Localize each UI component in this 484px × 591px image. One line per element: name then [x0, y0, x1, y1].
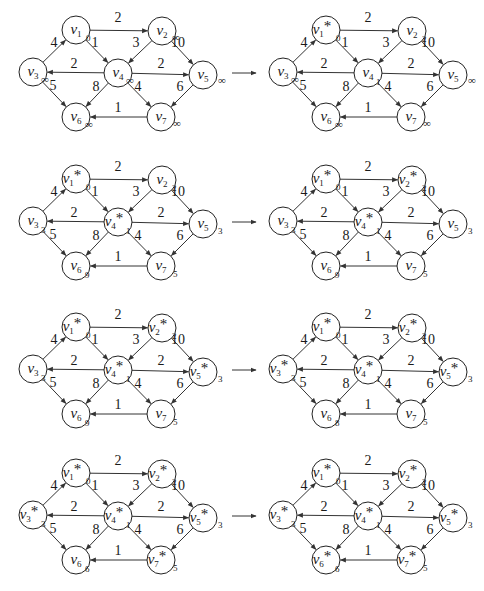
edge-weight: 6 — [427, 376, 434, 391]
edge-weight: 8 — [343, 376, 350, 391]
graph-canvas: 4213102258461v10v2∞v3∞v4∞v5∞v6∞v7∞421310… — [0, 0, 484, 591]
distance-label: 3 — [218, 374, 223, 384]
distance-label: 6 — [85, 564, 90, 574]
edge-v4-v5: 2 — [132, 205, 189, 224]
edge-weight: 4 — [385, 522, 392, 537]
edge-weight: 8 — [93, 376, 100, 391]
edge-weight: 4 — [51, 332, 58, 347]
edge-weight: 6 — [427, 79, 434, 94]
distance-label: 1 — [126, 374, 131, 384]
panels: 4213102258461v10v2∞v3∞v4∞v5∞v6∞v7∞421310… — [19, 10, 476, 574]
edge-weight: 8 — [343, 522, 350, 537]
edge-weight: 8 — [93, 228, 100, 243]
edge-v4-v7: 4 — [128, 376, 151, 404]
distance-label: 2 — [172, 477, 177, 487]
edge-weight: 5 — [50, 375, 57, 390]
edge-weight: 2 — [408, 205, 415, 220]
distance-label: 1 — [126, 520, 131, 530]
graph-panel-p5: 4213102258461v1*0v2*2v33v4*1v5*3v69v75 — [19, 307, 223, 428]
edge-weight: 5 — [300, 227, 307, 242]
edge-weight: 4 — [51, 35, 58, 50]
edge-weight: 1 — [92, 332, 99, 347]
distance-label: 0 — [86, 476, 91, 486]
edge-weight: 2 — [321, 205, 328, 220]
distance-label: 2 — [172, 331, 177, 341]
edge-weight: 2 — [365, 453, 372, 468]
edge-v5-v7: 6 — [171, 228, 193, 256]
edge-v2-v4: 3 — [129, 332, 152, 360]
vertex-v6: v6∞ — [62, 103, 93, 131]
edge-weight: 2 — [115, 453, 122, 468]
edge-v5-v7: 6 — [171, 79, 193, 107]
vertex-v5: v5*3 — [189, 358, 223, 386]
edge-weight: 2 — [71, 499, 78, 514]
edge-v4-v3: 2 — [298, 56, 355, 73]
distance-label: 5 — [173, 269, 178, 279]
edge-weight: 4 — [51, 184, 58, 199]
distance-label: 2 — [172, 183, 177, 193]
edge-v2-v4: 3 — [379, 332, 402, 360]
edge-weight: 3 — [383, 332, 390, 347]
vertex-v6: v69 — [312, 252, 340, 280]
distance-label: ∞ — [423, 117, 431, 129]
edge-v2-v4: 3 — [129, 478, 152, 506]
edge-v3-v1: 4 — [43, 478, 66, 505]
distance-label: 0 — [86, 330, 91, 340]
edge-v4-v6: 8 — [336, 522, 358, 550]
vertex-v7: v75 — [147, 400, 178, 428]
edge-v4-v6: 8 — [86, 376, 108, 404]
edge-v5-v7: 6 — [171, 522, 193, 550]
edge-v2-v4: 3 — [379, 35, 402, 63]
edge-weight: 3 — [133, 332, 140, 347]
edge-weight: 5 — [300, 521, 307, 536]
vertex-v6: v69 — [62, 252, 90, 280]
edge-v5-v7: 6 — [421, 376, 443, 404]
edge-weight: 1 — [92, 478, 99, 493]
edge-weight: 8 — [93, 522, 100, 537]
edge-v3-v1: 4 — [293, 184, 316, 211]
vertex-v3: v33 — [19, 355, 47, 383]
edge-weight: 3 — [133, 478, 140, 493]
edge-weight: 1 — [115, 397, 122, 412]
distance-label: ∞ — [291, 73, 299, 85]
edge-v2-v4: 3 — [129, 184, 152, 212]
edge-weight: 1 — [342, 332, 349, 347]
vertex-v2: v2∞ — [148, 17, 180, 45]
distance-label: 1 — [376, 520, 381, 530]
edge-v4-v6: 8 — [336, 228, 358, 256]
edge-weight: 4 — [301, 478, 308, 493]
edge-v7-v6: 1 — [91, 249, 148, 266]
distance-label: 2 — [422, 331, 427, 341]
edge-weight: 5 — [300, 375, 307, 390]
distance-label: ∞ — [173, 117, 181, 129]
edge-weight: 2 — [158, 353, 165, 368]
distance-label: 3 — [41, 373, 46, 383]
edge-weight: 2 — [71, 56, 78, 71]
edge-v4-v3: 2 — [298, 205, 355, 222]
distance-label: 2 — [422, 183, 427, 193]
distance-label: 9 — [335, 270, 340, 280]
vertex-v6: v66 — [62, 546, 90, 574]
vertex-v6: v6*6 — [312, 546, 340, 574]
distance-label: 3 — [468, 226, 473, 236]
distance-label: 0 — [336, 330, 341, 340]
edge-v4-v6: 8 — [86, 228, 108, 256]
edge-v4-v7: 4 — [378, 79, 401, 107]
distance-label: 0 — [86, 182, 91, 192]
distance-label: 3 — [291, 519, 296, 529]
vertex-v5: v53 — [189, 210, 223, 238]
graph-panel-p4: 4213102258461v1*0v2*2v33v4*1v53v69v75 — [269, 159, 473, 280]
vertex-v4: v4*1 — [104, 502, 132, 530]
edge-v1-v2: 2 — [340, 453, 398, 474]
edge-weight: 2 — [71, 205, 78, 220]
edge-weight: 3 — [383, 184, 390, 199]
edge-v4-v5: 2 — [132, 353, 189, 372]
vertex-v2: v2*2 — [148, 314, 177, 342]
vertex-v3: v3*3 — [269, 501, 297, 529]
vertex-v1: v1*0 — [62, 165, 91, 193]
edge-weight: 4 — [301, 35, 308, 50]
edge-v1-v2: 2 — [90, 159, 148, 180]
edge-v4-v7: 4 — [128, 228, 151, 256]
edge-weight: 1 — [365, 397, 372, 412]
edge-weight: 4 — [301, 332, 308, 347]
